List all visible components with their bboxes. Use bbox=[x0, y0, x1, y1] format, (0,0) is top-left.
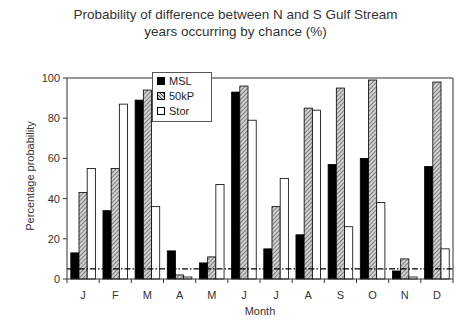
bar-stor-11 bbox=[441, 249, 449, 279]
bars-group bbox=[71, 80, 449, 279]
y-tick-label: 100 bbox=[42, 72, 60, 84]
legend-item-stor: Stor bbox=[153, 103, 211, 118]
bar-50kp-0 bbox=[79, 193, 87, 279]
bar-msl-3 bbox=[167, 251, 175, 279]
y-tick-label: 0 bbox=[54, 273, 60, 285]
bar-msl-0 bbox=[71, 253, 79, 279]
x-tick-label: S bbox=[337, 289, 344, 301]
bar-50kp-6 bbox=[272, 207, 280, 279]
bar-stor-7 bbox=[312, 110, 320, 279]
bar-50kp-3 bbox=[175, 275, 183, 279]
y-tick-label: 40 bbox=[48, 193, 60, 205]
bar-50kp-2 bbox=[143, 90, 151, 279]
bar-50kp-1 bbox=[111, 168, 119, 279]
bar-stor-1 bbox=[119, 104, 127, 279]
bar-msl-2 bbox=[135, 100, 143, 279]
bar-50kp-5 bbox=[240, 86, 248, 279]
bar-50kp-7 bbox=[304, 108, 312, 279]
y-tick-label: 60 bbox=[48, 152, 60, 164]
bar-stor-0 bbox=[87, 168, 95, 279]
bar-msl-5 bbox=[232, 92, 240, 279]
50kp-swatch-icon bbox=[157, 92, 165, 100]
bar-stor-2 bbox=[152, 207, 160, 279]
bar-msl-9 bbox=[360, 158, 368, 279]
legend-item-50kp: 50kP bbox=[153, 88, 211, 103]
y-tick-label: 80 bbox=[48, 112, 60, 124]
bar-50kp-4 bbox=[208, 257, 216, 279]
x-tick-label: A bbox=[176, 289, 184, 301]
bar-50kp-8 bbox=[336, 88, 344, 279]
legend: MSL 50kP Stor bbox=[152, 72, 212, 122]
x-tick-label: O bbox=[368, 289, 377, 301]
legend-label-msl: MSL bbox=[169, 75, 192, 87]
x-tick-label: M bbox=[143, 289, 152, 301]
bar-msl-8 bbox=[328, 164, 336, 279]
bar-stor-4 bbox=[216, 185, 224, 279]
bar-msl-4 bbox=[199, 263, 207, 279]
legend-item-msl: MSL bbox=[153, 73, 211, 88]
bar-stor-9 bbox=[377, 203, 385, 279]
bar-msl-7 bbox=[296, 235, 304, 279]
msl-swatch-icon bbox=[157, 77, 165, 85]
bar-50kp-11 bbox=[433, 82, 441, 279]
stor-swatch-icon bbox=[157, 107, 165, 115]
x-tick-label: D bbox=[433, 289, 441, 301]
x-tick-label: A bbox=[305, 289, 313, 301]
x-tick-label: M bbox=[207, 289, 216, 301]
bar-stor-5 bbox=[248, 120, 256, 279]
legend-label-stor: Stor bbox=[169, 105, 189, 117]
bar-msl-10 bbox=[392, 271, 400, 279]
x-tick-label: J bbox=[241, 289, 247, 301]
bar-stor-6 bbox=[280, 179, 288, 280]
x-tick-label: F bbox=[112, 289, 119, 301]
bar-msl-11 bbox=[425, 166, 433, 279]
bar-msl-6 bbox=[264, 249, 272, 279]
bar-chart: JFMAMJJASOND020406080100 bbox=[0, 0, 471, 323]
x-tick-label: J bbox=[273, 289, 279, 301]
legend-label-50kp: 50kP bbox=[169, 90, 194, 102]
x-tick-label: J bbox=[80, 289, 86, 301]
y-tick-label: 20 bbox=[48, 233, 60, 245]
x-tick-label: N bbox=[401, 289, 409, 301]
bar-50kp-9 bbox=[368, 80, 376, 279]
bar-stor-8 bbox=[345, 227, 353, 279]
